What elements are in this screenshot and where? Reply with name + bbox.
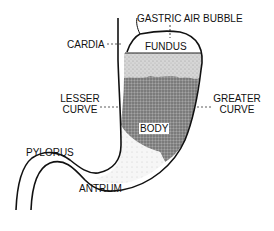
label-body: BODY [139,123,169,134]
label-antrum: ANTRUM [79,183,122,194]
label-gastric-air-bubble: GASTRIC AIR BUBBLE [137,13,243,24]
label-pylorus: PYLORUS [26,147,74,158]
label-greater-curve-line1: GREATER [210,93,264,104]
label-cardia: CARDIA [67,39,105,50]
label-lesser-curve-line1: LESSER [60,93,100,104]
stomach-diagram [0,0,274,231]
label-fundus: FUNDUS [145,41,187,52]
label-greater-curve: GREATER CURVE [210,93,264,115]
label-lesser-curve: LESSER CURVE [60,93,100,115]
fundus-stipple-region [124,53,201,78]
label-greater-curve-line2: CURVE [210,104,264,115]
label-lesser-curve-line2: CURVE [60,104,100,115]
air-bubble-arc [127,34,140,52]
